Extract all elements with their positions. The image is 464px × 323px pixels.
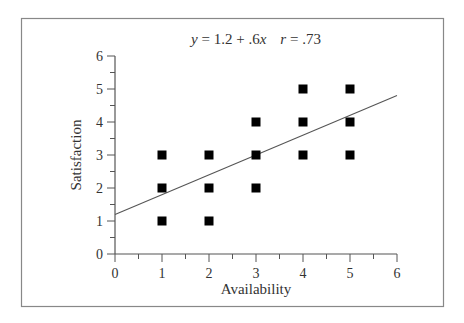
y-tick-label: 0 — [96, 247, 103, 262]
x-tick-label: 6 — [394, 266, 401, 281]
data-point — [158, 151, 167, 160]
x-axis-label: Availability — [221, 281, 292, 297]
data-point — [158, 217, 167, 226]
data-point — [346, 151, 355, 160]
x-tick-label: 5 — [347, 266, 354, 281]
y-tick-label: 4 — [96, 115, 103, 130]
data-point — [346, 118, 355, 127]
x-tick-label: 4 — [300, 266, 307, 281]
x-tick-label: 3 — [253, 266, 260, 281]
data-point — [252, 118, 261, 127]
x-tick-label: 1 — [159, 266, 166, 281]
data-point — [205, 151, 214, 160]
data-point — [299, 85, 308, 94]
y-tick-label: 5 — [96, 82, 103, 97]
data-point — [252, 184, 261, 193]
data-point — [158, 184, 167, 193]
y-tick-label: 2 — [96, 181, 103, 196]
y-axis-label: Satisfaction — [68, 119, 84, 190]
data-point — [205, 217, 214, 226]
data-point — [299, 151, 308, 160]
x-tick-label: 2 — [206, 266, 213, 281]
scatter-chart: y = 1.2 + .6xr = .73 0123456 0123456 Ava… — [0, 0, 464, 323]
data-point — [252, 151, 261, 160]
x-tick-label: 0 — [112, 266, 119, 281]
chart-title: y = 1.2 + .6xr = .73 — [189, 31, 321, 47]
chart-frame — [22, 19, 444, 307]
data-point — [299, 118, 308, 127]
data-point — [346, 85, 355, 94]
y-tick-label: 3 — [96, 148, 103, 163]
data-point — [205, 184, 214, 193]
y-tick-label: 1 — [96, 214, 103, 229]
y-tick-label: 6 — [96, 49, 103, 64]
